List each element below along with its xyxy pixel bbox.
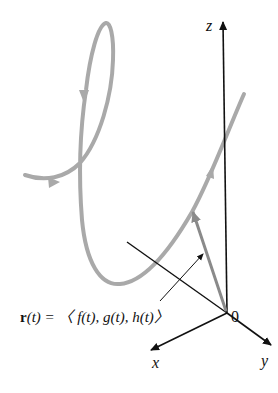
space-curve-diagram: z x y 0 r(t) = 〈 f(t), g(t), h(t)〉 — [0, 0, 278, 393]
y-axis-label: y — [259, 352, 269, 370]
x-axis-label: x — [151, 354, 159, 371]
vector-components: (t) = 〈 f(t), g(t), h(t)〉 — [27, 309, 169, 326]
annotation-pointer-arrow — [160, 254, 203, 301]
z-axis — [223, 22, 227, 313]
curve-direction-arrow-2 — [79, 90, 89, 103]
z-axis-label: z — [205, 17, 213, 34]
origin-label: 0 — [231, 308, 239, 325]
vector-equation: r(t) = 〈 f(t), g(t), h(t)〉 — [20, 309, 169, 326]
x-axis-back-line — [127, 242, 227, 313]
position-vector — [193, 212, 226, 311]
space-curve — [25, 23, 244, 284]
